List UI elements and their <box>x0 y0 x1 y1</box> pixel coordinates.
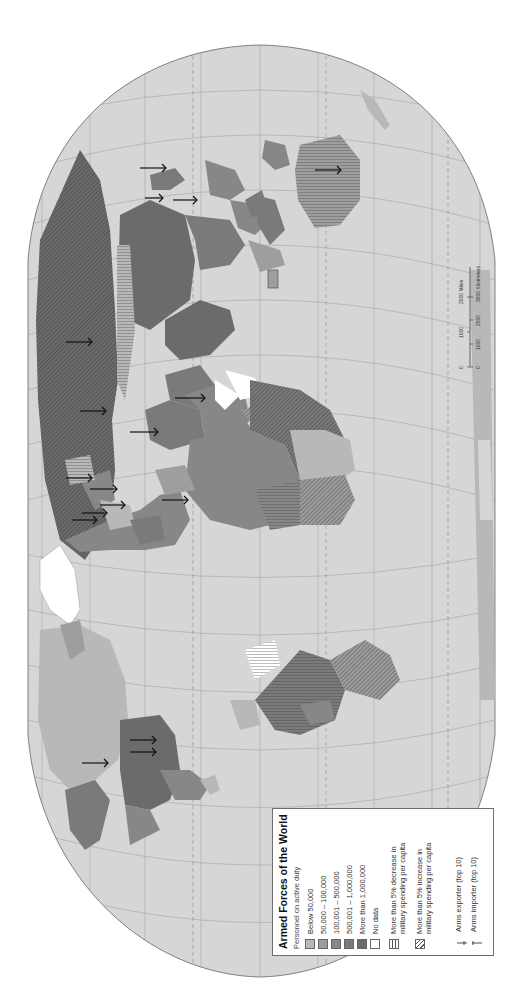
scale-km-3000: 3000 Kilometers <box>475 266 481 302</box>
scale-bar: 0 1000 2000 Miles 0 1000 2000 3000 Kilom… <box>450 252 490 372</box>
legend-symbol-importer: Arms importer (top 10) <box>468 857 478 949</box>
scale-km-2000: 2000 <box>475 315 481 326</box>
legend-item-no-data: No data <box>370 908 380 949</box>
legend-item-50000-100000: 50,000 – 100,000 <box>318 876 328 949</box>
swatch <box>305 939 315 949</box>
legend-title: Armed Forces of the World <box>277 814 289 949</box>
swatch <box>370 939 380 949</box>
legend-item-100001-500000: 100,001 – 500,000 <box>331 871 341 949</box>
swatch <box>331 939 341 949</box>
legend-item-500001-1000000: 500,001 – 1,000,000 <box>344 865 354 949</box>
swatch <box>344 939 354 949</box>
legend-pattern-decrease: More than 5% decrease in military spendi… <box>389 824 407 949</box>
arms-exporter-icon <box>453 937 463 949</box>
vertical-lines-swatch <box>389 939 399 949</box>
diagonal-lines-swatch <box>415 939 425 949</box>
legend-item-below-50000: Below 50,000 <box>305 889 315 949</box>
scale-miles-2000: 2000 Miles <box>458 280 464 304</box>
legend-pattern-increase: More than 5% increase in military spendi… <box>415 824 433 949</box>
scale-miles-1000: 1000 <box>458 327 464 338</box>
swatch <box>357 939 367 949</box>
swatch <box>318 939 328 949</box>
map-legend: Armed Forces of the World Personnel on a… <box>272 808 494 956</box>
scale-km-0: 0 <box>475 366 481 369</box>
legend-symbol-exporter: Arms exporter (top 10) <box>453 857 463 949</box>
scale-km-1000: 1000 <box>475 339 481 350</box>
legend-item-more-than-1000000: More than 1,000,000 <box>357 865 367 949</box>
legend-subtitle: Personnel on active duty <box>292 867 301 949</box>
scale-miles-0: 0 <box>458 366 464 369</box>
arms-importer-icon <box>468 937 478 949</box>
